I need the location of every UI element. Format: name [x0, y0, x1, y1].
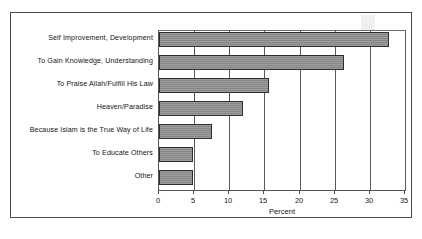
bar	[159, 124, 212, 139]
bar	[159, 32, 389, 47]
x-tick-mark	[193, 190, 194, 194]
bar-row	[159, 32, 405, 47]
x-tick-label: 20	[287, 196, 311, 205]
bar	[159, 147, 193, 162]
bar-row	[159, 170, 405, 185]
chart-figure: Self Improvement, Development To Gain Kn…	[10, 12, 412, 218]
bar-row	[159, 147, 405, 162]
scan-artifact	[361, 15, 375, 31]
category-label: Heaven/Paradise	[97, 100, 153, 115]
category-label: Other	[135, 169, 153, 184]
category-axis: Self Improvement, Development To Gain Kn…	[11, 31, 157, 189]
bar	[159, 101, 243, 116]
bar-row	[159, 78, 405, 93]
category-label: To Gain Knowledge, Understanding	[38, 54, 153, 69]
x-tick-label: 0	[146, 196, 170, 205]
x-tick-mark	[299, 190, 300, 194]
bar	[159, 78, 269, 93]
x-tick-label: 25	[322, 196, 346, 205]
x-tick-label: 10	[216, 196, 240, 205]
x-tick-mark	[228, 190, 229, 194]
x-axis-title: Percent	[158, 207, 406, 216]
plot-area	[158, 30, 406, 191]
bar-row	[159, 124, 405, 139]
category-label: To Educate Others	[92, 146, 153, 161]
x-tick-mark	[334, 190, 335, 194]
x-tick-label: 5	[181, 196, 205, 205]
gridline	[405, 31, 406, 190]
bar-row	[159, 55, 405, 70]
x-tick-mark	[404, 190, 405, 194]
bar	[159, 170, 193, 185]
x-tick-label: 35	[392, 196, 416, 205]
x-tick-mark	[369, 190, 370, 194]
x-tick-mark	[158, 190, 159, 194]
category-label: Self Improvement, Development	[48, 31, 153, 46]
bar	[159, 55, 344, 70]
x-tick-label: 15	[251, 196, 275, 205]
category-label: Because Islam is the True Way of Life	[30, 123, 153, 138]
x-tick-label: 30	[357, 196, 381, 205]
category-label: To Praise Allah/Fulfill His Law	[57, 77, 153, 92]
bar-row	[159, 101, 405, 116]
x-tick-mark	[263, 190, 264, 194]
